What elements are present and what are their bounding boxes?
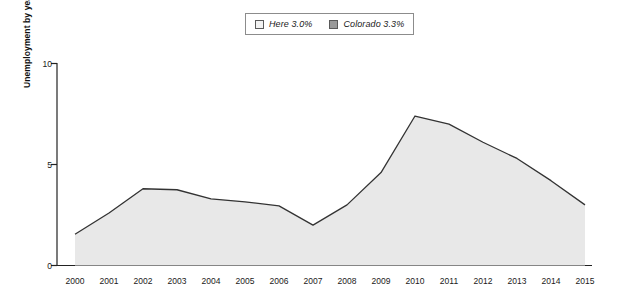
chart-legend: Here 3.0% Colorado 3.3% bbox=[245, 13, 414, 35]
legend-entry-colorado: Colorado 3.3% bbox=[329, 19, 404, 29]
x-tick-label-2002: 2002 bbox=[126, 276, 160, 286]
x-tick-label-2006: 2006 bbox=[262, 276, 296, 286]
y-tick-label-10: 10 bbox=[28, 59, 52, 69]
area-fill-here bbox=[75, 116, 585, 265]
unemployment-area-chart: Here 3.0% Colorado 3.3% Unemployment by … bbox=[0, 0, 617, 303]
y-tick-label-5: 5 bbox=[28, 160, 52, 170]
y-tick-label-0: 0 bbox=[28, 261, 52, 271]
x-tick-label-2004: 2004 bbox=[194, 276, 228, 286]
plot-area bbox=[0, 0, 617, 303]
x-tick-label-2012: 2012 bbox=[466, 276, 500, 286]
x-tick-label-2014: 2014 bbox=[534, 276, 568, 286]
legend-label-here: Here 3.0% bbox=[269, 19, 312, 29]
x-tick-label-2005: 2005 bbox=[228, 276, 262, 286]
series-group bbox=[75, 116, 585, 265]
x-tick-label-2000: 2000 bbox=[58, 276, 92, 286]
gray-swatch-icon bbox=[329, 20, 338, 29]
x-tick-label-2003: 2003 bbox=[160, 276, 194, 286]
x-tick-label-2015: 2015 bbox=[568, 276, 602, 286]
legend-entry-here: Here 3.0% bbox=[255, 19, 312, 29]
x-tick-label-2009: 2009 bbox=[364, 276, 398, 286]
legend-label-colorado: Colorado 3.3% bbox=[343, 19, 404, 29]
y-axis-title: Unemployment by year (%) bbox=[22, 0, 32, 88]
x-tick-label-2011: 2011 bbox=[432, 276, 466, 286]
x-tick-label-2010: 2010 bbox=[398, 276, 432, 286]
x-tick-label-2007: 2007 bbox=[296, 276, 330, 286]
x-tick-label-2013: 2013 bbox=[500, 276, 534, 286]
light-swatch-icon bbox=[255, 20, 264, 29]
x-tick-label-2001: 2001 bbox=[92, 276, 126, 286]
x-tick-label-2008: 2008 bbox=[330, 276, 364, 286]
